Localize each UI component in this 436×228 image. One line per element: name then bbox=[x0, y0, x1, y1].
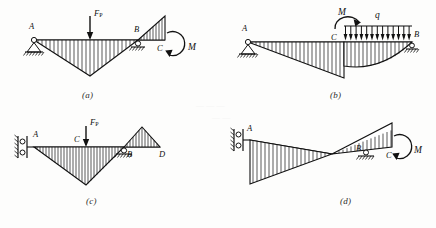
moment-area-positive-d bbox=[332, 123, 392, 154]
bending-moment-figure: — — — — — — — bbox=[0, 0, 436, 228]
couple-arrow-m-d bbox=[392, 135, 411, 160]
panel-a-drawing bbox=[0, 0, 218, 114]
panel-d: A B C M (d) bbox=[218, 114, 436, 228]
point-label-c: C bbox=[386, 151, 392, 160]
moment-label-m: M bbox=[338, 8, 346, 18]
point-label-b: B bbox=[127, 150, 132, 159]
moment-area-positive-c bbox=[124, 127, 160, 147]
distributed-load-q-b bbox=[344, 26, 412, 41]
load-label-q: q bbox=[375, 11, 380, 21]
load-arrow-fp-a bbox=[87, 16, 93, 40]
moment-label-m: M bbox=[188, 43, 196, 53]
panel-c: A C B D FP (c) bbox=[0, 114, 218, 228]
load-label-fp: FP bbox=[90, 118, 99, 127]
load-arrow-fp-c bbox=[83, 126, 89, 147]
point-label-d: D bbox=[159, 150, 165, 159]
couple-arrow-m-b bbox=[335, 17, 361, 29]
load-label-fp: FP bbox=[94, 9, 103, 18]
couple-arrow-m-a bbox=[165, 32, 184, 57]
panel-b-drawing bbox=[218, 0, 436, 114]
moment-area-left-b bbox=[248, 42, 344, 78]
panel-a: A B C FP M (a) bbox=[0, 0, 218, 114]
panel-caption-c: (c) bbox=[86, 196, 97, 206]
point-label-a: A bbox=[247, 124, 252, 133]
moment-area-right-b bbox=[344, 42, 412, 67]
moment-label-m: M bbox=[414, 146, 422, 156]
point-label-a: A bbox=[242, 24, 247, 33]
moment-area-negative-c bbox=[34, 147, 124, 185]
moment-area-negative-d bbox=[250, 140, 332, 184]
point-label-a: A bbox=[33, 130, 38, 139]
point-label-c: C bbox=[74, 135, 80, 144]
moment-area-negative-a bbox=[34, 40, 138, 76]
point-label-b: B bbox=[414, 30, 419, 39]
support-guided-c bbox=[15, 135, 35, 158]
point-label-c: C bbox=[157, 44, 163, 53]
point-label-a: A bbox=[29, 22, 34, 31]
panel-caption-a: (a) bbox=[82, 90, 93, 100]
point-label-b: B bbox=[356, 144, 361, 153]
panel-caption-b: (b) bbox=[330, 90, 341, 100]
point-label-b: B bbox=[134, 25, 139, 34]
moment-area-positive-a bbox=[138, 16, 165, 40]
panel-b: A B C M q (b) bbox=[218, 0, 436, 114]
panel-caption-d: (d) bbox=[340, 196, 351, 206]
point-label-c: C bbox=[331, 33, 337, 42]
